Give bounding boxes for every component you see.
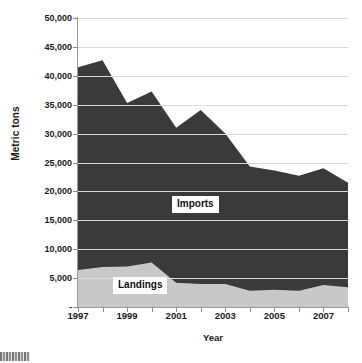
x-tick-mark	[348, 307, 349, 312]
y-axis-tick-label: 45,000	[18, 42, 72, 51]
gridline	[78, 105, 348, 106]
gridline	[78, 191, 348, 192]
gridline	[78, 220, 348, 221]
y-axis-tick-label: 20,000	[18, 187, 72, 196]
x-tick-mark	[299, 307, 300, 312]
y-axis-tick-label: 15,000	[18, 216, 72, 225]
y-tick-mark	[73, 249, 78, 250]
x-axis-line	[77, 307, 348, 308]
y-tick-mark	[73, 18, 78, 19]
x-tick-mark	[152, 307, 153, 312]
plot-area	[78, 18, 348, 307]
x-tick-mark	[250, 307, 251, 312]
y-axis-tick-label: 5,000	[18, 274, 72, 283]
x-axis-title: Year	[78, 332, 348, 343]
x-tick-mark	[103, 307, 104, 312]
x-axis-tick-label: 2007	[313, 310, 334, 321]
gridline	[78, 18, 348, 19]
x-axis-tick-label: 1999	[117, 310, 138, 321]
y-axis-tick-label: 50,000	[18, 14, 72, 23]
y-axis-tick-label: 30,000	[18, 129, 72, 138]
scan-artifact	[0, 352, 30, 361]
y-axis-tick-label: 10,000	[18, 245, 72, 254]
area-chart: Metric tons -5,00010,00015,00020,00025,0…	[0, 0, 362, 363]
gridline	[78, 76, 348, 77]
y-tick-mark	[73, 105, 78, 106]
y-axis-tick-label: 25,000	[18, 158, 72, 167]
x-axis-tick-label: 2005	[264, 310, 285, 321]
series-label-landings: Landings	[113, 277, 167, 294]
y-tick-mark	[73, 191, 78, 192]
y-axis-tick-label: 40,000	[18, 71, 72, 80]
x-tick-mark	[201, 307, 202, 312]
y-tick-mark	[73, 163, 78, 164]
y-tick-mark	[73, 47, 78, 48]
y-axis-tick-labels: -5,00010,00015,00020,00025,00030,00035,0…	[14, 0, 72, 363]
gridline	[78, 163, 348, 164]
y-axis-tick-label: 35,000	[18, 100, 72, 109]
gridline	[78, 47, 348, 48]
x-axis-tick-label: 2003	[215, 310, 236, 321]
y-axis-tick-label: -	[18, 303, 72, 312]
gridline	[78, 134, 348, 135]
y-tick-mark	[73, 76, 78, 77]
gridline	[78, 249, 348, 250]
x-axis-tick-label: 1997	[67, 310, 88, 321]
x-axis-tick-label: 2001	[166, 310, 187, 321]
series-label-imports: Imports	[172, 196, 219, 213]
y-tick-mark	[73, 278, 78, 279]
y-tick-mark	[73, 220, 78, 221]
y-tick-mark	[73, 134, 78, 135]
